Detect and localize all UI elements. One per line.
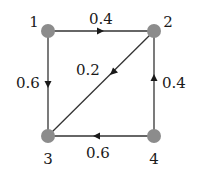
- graph-canvas: 1 2 3 4 0.4 0.6 0.2 0.4 0.6: [0, 0, 197, 176]
- node-3: [41, 129, 55, 143]
- arrow-right-icon: [97, 28, 104, 35]
- node-2-label: 2: [163, 13, 173, 31]
- arrow-left-icon: [93, 133, 100, 140]
- arrow-down-icon: [45, 81, 52, 88]
- edge-4-3-weight: 0.6: [86, 144, 110, 162]
- arrow-up-icon: [151, 74, 158, 81]
- node-1: [41, 24, 55, 38]
- edge-1-3-weight: 0.6: [16, 74, 40, 92]
- edge-1-2-weight: 0.4: [89, 10, 113, 28]
- edge-4-2-weight: 0.4: [162, 74, 186, 92]
- edge-2-3: [48, 31, 154, 136]
- node-4: [147, 129, 161, 143]
- node-4-label: 4: [149, 150, 159, 168]
- node-1-label: 1: [29, 13, 39, 31]
- node-2: [147, 24, 161, 38]
- node-3-label: 3: [43, 150, 53, 168]
- edge-2-3-weight: 0.2: [76, 61, 100, 79]
